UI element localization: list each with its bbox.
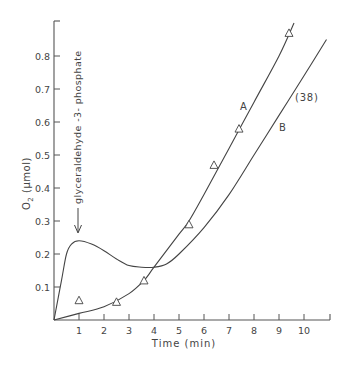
reference-label: (38) [295, 92, 319, 103]
y-label-o: O [21, 202, 32, 210]
y-tick-label: 0.5 [35, 150, 50, 161]
svg-text:O2 (µmol): O2 (µmol) [21, 157, 35, 210]
triangle-marker-icon [75, 296, 83, 304]
x-tick-label: 3 [126, 325, 132, 336]
triangle-markers [75, 29, 293, 305]
oxygen-time-chart: 12345678910 0.10.20.30.40.50.60.70.8 Tim… [0, 0, 345, 366]
triangle-marker-icon [285, 29, 293, 37]
y-tick-label: 0.4 [35, 183, 50, 194]
x-tick-label: 7 [226, 325, 232, 336]
y-axis-label: O2 (µmol) [21, 157, 35, 210]
y-tick-label: 0.1 [35, 282, 50, 293]
y-tick-label: 0.3 [35, 216, 50, 227]
x-tick-label: 1 [76, 325, 82, 336]
curves [54, 23, 327, 320]
x-tick-label: 10 [298, 325, 310, 336]
triangle-marker-icon [210, 161, 218, 169]
x-axis-label: Time (min) [151, 338, 216, 349]
axes [54, 21, 330, 320]
y-tick-label: 0.6 [35, 117, 50, 128]
x-tick-label: 9 [276, 325, 282, 336]
x-tick-label: 5 [176, 325, 182, 336]
y-tick-label: 0.8 [35, 51, 50, 62]
x-tick-label: 4 [151, 325, 157, 336]
x-tick-label: 6 [201, 325, 207, 336]
triangle-marker-icon [185, 220, 193, 228]
annotation-text: glyceraldehyde -3- phosphate [72, 50, 83, 204]
glyceraldehyde-annotation: glyceraldehyde -3- phosphate [72, 50, 83, 233]
curve-b [54, 40, 327, 321]
y-label-unit: (µmol) [21, 157, 32, 196]
y-tick-label: 0.2 [35, 249, 50, 260]
x-tick-label: 2 [101, 325, 107, 336]
curve-a-label: A [240, 101, 247, 112]
curve-b-label: B [279, 122, 286, 133]
y-tick-label: 0.7 [35, 84, 50, 95]
x-ticks: 12345678910 [76, 314, 310, 336]
curve-a [54, 23, 294, 320]
y-ticks: 0.10.20.30.40.50.60.70.8 [35, 51, 60, 293]
x-tick-label: 8 [251, 325, 257, 336]
